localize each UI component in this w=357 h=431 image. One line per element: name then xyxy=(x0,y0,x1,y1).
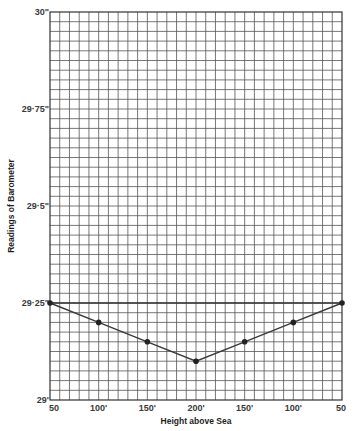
y-axis-label: Readings of Barometer xyxy=(6,159,16,253)
x-tick-label: 50 xyxy=(49,403,59,413)
x-tick-label: 150' xyxy=(236,403,253,413)
data-point xyxy=(339,300,345,306)
x-tick-labels: 50100'150'200'150'100'50 xyxy=(49,403,346,413)
data-point xyxy=(193,358,199,364)
data-point xyxy=(242,339,248,345)
x-tick-label: 50 xyxy=(336,403,346,413)
x-axis-label: Height above Sea xyxy=(161,416,232,426)
data-point xyxy=(96,320,102,326)
data-point xyxy=(291,320,297,326)
y-tick-label: 29·5" xyxy=(27,201,49,211)
x-tick-label: 100' xyxy=(285,403,302,413)
barometer-chart: 30"29·75"29·5"29·25"29' 50100'150'200'15… xyxy=(0,0,357,431)
grid xyxy=(50,12,342,400)
y-tick-label: 29' xyxy=(37,395,49,405)
x-tick-label: 150' xyxy=(139,403,156,413)
x-tick-label: 200' xyxy=(187,403,204,413)
y-tick-label: 30" xyxy=(35,7,49,17)
data-point xyxy=(145,339,151,345)
y-tick-label: 29·75" xyxy=(22,104,49,114)
x-tick-label: 100' xyxy=(90,403,107,413)
y-tick-label: 29·25" xyxy=(22,298,49,308)
y-tick-labels: 30"29·75"29·5"29·25"29' xyxy=(22,7,49,405)
